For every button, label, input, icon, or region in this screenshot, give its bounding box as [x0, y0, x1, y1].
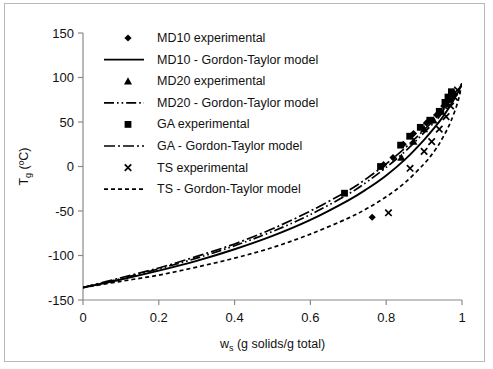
legend-item-7[interactable]: TS - Gordon-Taylor model [104, 182, 301, 196]
legend-item-5[interactable]: GA - Gordon-Taylor model [104, 139, 302, 153]
legend-item-4[interactable]: GA experimental [125, 117, 250, 131]
y-tick-label: -100 [48, 248, 74, 263]
legend-label-1: MD10 - Gordon-Taylor model [157, 53, 318, 67]
chart-svg: 150100500-50-100-15000.20.40.60.81ws (g … [0, 0, 493, 369]
x-tick-label: 1 [458, 310, 465, 325]
x-tick-label: 0.2 [150, 310, 168, 325]
x-axis-title: ws (g solids/g total) [219, 337, 325, 353]
legend-item-2[interactable]: MD20 experimental [124, 74, 265, 88]
legend-label-0: MD10 experimental [157, 31, 265, 45]
x-tick-label: 0.6 [301, 310, 319, 325]
data-point-ga [426, 117, 433, 124]
legend-label-4: GA experimental [157, 117, 249, 131]
y-tick-label: 0 [67, 159, 74, 174]
y-tick-label: 50 [60, 115, 74, 130]
legend-item-0[interactable]: MD10 experimental [124, 31, 265, 45]
data-point-ga [397, 142, 404, 149]
legend-item-1[interactable]: MD10 - Gordon-Taylor model [104, 53, 318, 67]
legend-label-5: GA - Gordon-Taylor model [157, 139, 302, 153]
data-point-md10 [369, 214, 376, 221]
data-point-ga [341, 190, 348, 197]
legend-label-7: TS - Gordon-Taylor model [157, 182, 301, 196]
y-tick-label: -150 [48, 293, 74, 308]
data-point-ga [436, 108, 443, 115]
legend-item-3[interactable]: MD20 - Gordon-Taylor model [104, 96, 318, 110]
data-point-ga [417, 124, 424, 131]
y-tick-label: 150 [52, 26, 74, 41]
legend-label-3: MD20 - Gordon-Taylor model [157, 96, 318, 110]
legend-label-2: MD20 experimental [157, 74, 265, 88]
glass-transition-chart: 150100500-50-100-15000.20.40.60.81ws (g … [0, 0, 493, 369]
data-point-ga [406, 133, 413, 140]
y-tick-label: 100 [52, 70, 74, 85]
legend-label-6: TS experimental [157, 161, 248, 175]
legend-marker-triangle-icon [124, 77, 132, 84]
legend-marker-diamond-icon [124, 34, 131, 41]
x-tick-label: 0.8 [377, 310, 395, 325]
x-tick-label: 0 [79, 310, 86, 325]
y-tick-label: -50 [55, 204, 74, 219]
data-point-ga [377, 163, 384, 170]
x-tick-label: 0.4 [226, 310, 244, 325]
y-axis-title: Tg (ºC) [17, 147, 33, 185]
legend-marker-square-icon [125, 121, 132, 128]
legend-item-6[interactable]: TS experimental [125, 161, 248, 175]
